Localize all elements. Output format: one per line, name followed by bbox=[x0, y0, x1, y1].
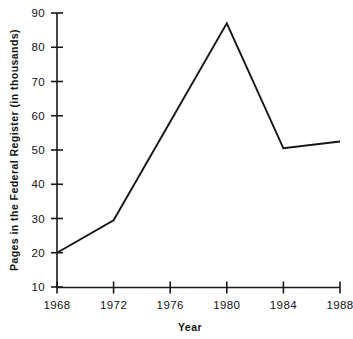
x-tick-label: 1988 bbox=[326, 299, 353, 311]
y-tick-label: 30 bbox=[31, 213, 45, 225]
x-tick-label: 1976 bbox=[157, 299, 184, 311]
y-tick-label: 40 bbox=[31, 178, 45, 190]
y-tick-label: 90 bbox=[31, 7, 45, 19]
y-tick-label: 10 bbox=[31, 281, 45, 293]
x-tick-label: 1968 bbox=[43, 299, 70, 311]
x-tick-label: 1984 bbox=[270, 299, 297, 311]
x-axis-tick-labels: 1968 1972 1976 1980 1984 1988 bbox=[43, 299, 353, 311]
y-axis-title: Pages in the Federal Register (in thousa… bbox=[8, 29, 20, 271]
data-series-line bbox=[57, 23, 340, 252]
chart-container: 90 80 70 60 50 40 30 20 10 1968 1972 197… bbox=[0, 0, 353, 339]
y-tick-label: 70 bbox=[31, 76, 45, 88]
y-tick-label: 60 bbox=[31, 110, 45, 122]
x-tick-label: 1972 bbox=[100, 299, 127, 311]
y-axis-tick-labels: 90 80 70 60 50 40 30 20 10 bbox=[31, 7, 45, 293]
x-axis-title: Year bbox=[178, 321, 202, 333]
y-tick-label: 80 bbox=[31, 41, 45, 53]
y-tick-label: 50 bbox=[31, 144, 45, 156]
line-chart: 90 80 70 60 50 40 30 20 10 1968 1972 197… bbox=[0, 0, 353, 339]
x-tick-label: 1980 bbox=[213, 299, 240, 311]
y-tick-label: 20 bbox=[31, 247, 45, 259]
